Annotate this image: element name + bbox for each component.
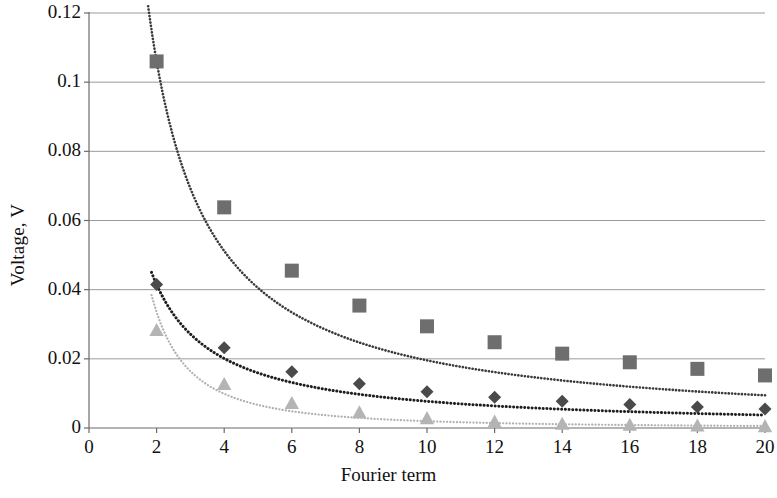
marker-triangle [217,377,231,390]
marker-diamond [285,365,298,378]
marker-diamond [218,341,231,354]
marker-square [285,264,299,278]
x-tick-label: 12 [471,436,519,458]
x-axis-title: Fourier term [0,464,777,486]
marker-diamond [150,278,163,291]
marker-diamond [353,377,366,390]
marker-square [488,335,502,349]
marker-diamond [556,395,569,408]
x-tick-label: 18 [673,436,721,458]
x-tick-label: 2 [133,436,181,458]
marker-square [217,200,231,214]
marker-diamond [623,398,636,411]
trend-diamonds [152,272,765,415]
marker-square [352,299,366,313]
y-tick-label: 0 [11,416,81,438]
x-tick-label: 14 [538,436,586,458]
x-tick-label: 8 [335,436,383,458]
trend-squares [148,6,765,395]
x-tick-label: 4 [200,436,248,458]
y-tick-label: 0.1 [11,70,81,92]
marker-square [758,368,772,382]
marker-diamond [488,391,501,404]
y-tick-label: 0.12 [11,1,81,23]
marker-triangle [352,405,366,418]
x-tick-label: 20 [741,436,777,458]
marker-diamond [691,400,704,413]
tick-marks [84,13,765,433]
y-tick-label: 0.08 [11,139,81,161]
marker-diamond [421,385,434,398]
marker-triangle [149,323,163,336]
marker-triangle [420,411,434,424]
data-markers [149,54,772,432]
marker-triangle [555,417,569,430]
x-tick-label: 0 [65,436,113,458]
marker-diamond [759,402,772,415]
y-tick-label: 0.06 [11,209,81,231]
y-tick-label: 0.02 [11,347,81,369]
marker-square [690,362,704,376]
chart-figure: Voltage, V Fourier term 00.020.040.060.0… [0,0,777,498]
y-tick-label: 0.04 [11,278,81,300]
trend-triangles [152,295,765,426]
x-tick-label: 6 [268,436,316,458]
chart-plot-area [0,0,777,498]
marker-square [150,54,164,68]
y-axis-title: Voltage, V [7,160,29,330]
marker-triangle [285,396,299,409]
marker-triangle [690,418,704,431]
marker-square [555,347,569,361]
y-axis-title-container: Voltage, V [2,150,32,350]
marker-square [623,355,637,369]
marker-triangle [487,415,501,428]
trend-lines [148,6,765,426]
x-tick-label: 16 [606,436,654,458]
marker-square [420,319,434,333]
x-tick-label: 10 [403,436,451,458]
